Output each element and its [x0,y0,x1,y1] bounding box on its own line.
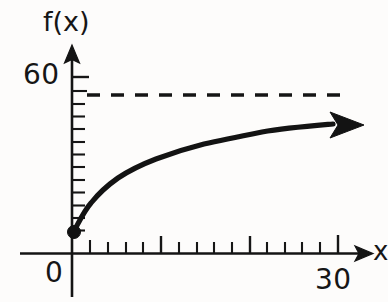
y-axis-tick-label-60: 60 [23,61,60,89]
curve-path [74,124,333,231]
y-axis-title: f(x) [43,8,90,35]
x-axis-tick-label-30: 30 [315,266,352,294]
curve-start-point-marker [68,226,81,239]
origin-label: 0 [45,259,63,287]
x-axis-title: x [373,238,388,264]
chart-figure: f(x) 60 0 30 x [0,0,388,302]
y-axis-group [65,45,90,297]
